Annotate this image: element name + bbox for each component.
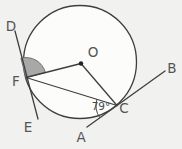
geometry-diagram: D F E O B C A 79°: [0, 0, 182, 149]
label-A: A: [76, 129, 86, 145]
center-point-dot: [79, 61, 83, 65]
label-F: F: [12, 73, 20, 89]
label-E: E: [24, 119, 33, 135]
label-B: B: [167, 60, 176, 76]
label-D: D: [6, 18, 16, 34]
angle-value-label: 79°: [92, 100, 111, 112]
label-O: O: [88, 44, 99, 60]
figure-canvas: D F E O B C A 79°: [0, 0, 182, 149]
label-C: C: [119, 100, 128, 116]
